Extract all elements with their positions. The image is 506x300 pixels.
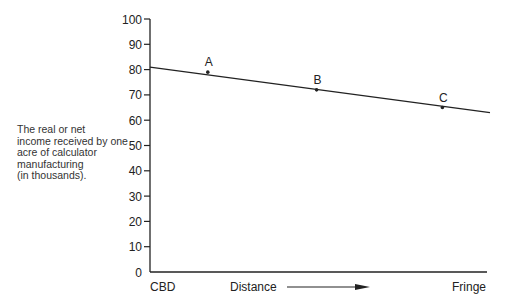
y-tick-label: 50 [129, 139, 143, 153]
y-tick-label: 10 [129, 240, 143, 254]
y-tick-label: 20 [129, 215, 143, 229]
axes: 0102030405060708090100 [122, 13, 487, 280]
y-tick-label: 30 [129, 190, 143, 204]
data-point [206, 70, 210, 74]
y-tick-label: 90 [129, 38, 143, 52]
arrow-right-icon [287, 284, 370, 290]
point-label: C [439, 91, 448, 105]
x-axis-start-label: CBD [150, 280, 176, 294]
point-label: B [314, 73, 322, 87]
data-point [315, 88, 319, 92]
y-tick-label: 80 [129, 63, 143, 77]
y-tick-label: 40 [129, 164, 143, 178]
data-point [441, 106, 445, 110]
plot-area: ABC [150, 55, 490, 112]
x-axis-label: Distance [230, 280, 277, 294]
x-axis-end-label: Fringe [452, 280, 486, 294]
y-tick-label: 100 [122, 13, 142, 27]
y-tick-label: 60 [129, 114, 143, 128]
point-label: A [205, 55, 213, 69]
y-tick-label: 0 [135, 266, 142, 280]
y-tick-label: 70 [129, 88, 143, 102]
chart: 0102030405060708090100 ABC CBD Distance … [0, 0, 506, 300]
